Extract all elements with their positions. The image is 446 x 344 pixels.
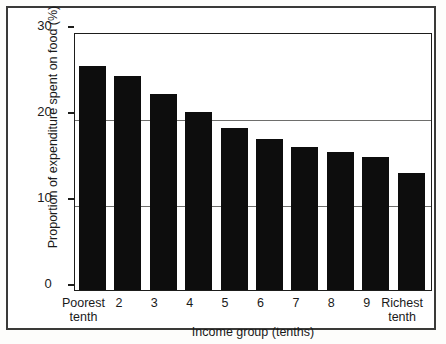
bar [114,76,141,290]
bar [221,128,248,290]
x-tick-label: Richesttenth [372,296,432,324]
y-tick-label-20: 20 [37,105,52,118]
bar-series [75,34,431,290]
figure-outer-frame: Proportion of expenditure spent on food … [6,6,436,330]
bar [291,147,318,290]
x-tick-label-line2: tenth [372,310,432,324]
x-tick-label-line1: Richest [372,296,432,310]
y-tick-mark-30 [68,26,74,28]
y-axis-title: Proportion of expenditure spent on food … [46,0,60,258]
bar [327,152,354,290]
bar [398,173,425,290]
y-tick-label-0: 0 [45,277,52,290]
bar [79,66,106,290]
plot-area [74,33,432,291]
bar [150,94,177,290]
y-tick-label-10: 10 [37,191,52,204]
x-axis-title: Income group (tenths) [74,325,432,339]
bar [185,112,212,290]
figure-container: Proportion of expenditure spent on food … [0,0,446,344]
y-tick-label-30: 30 [37,19,52,32]
x-tick-label-line2: tenth [54,310,114,324]
bar [362,157,389,290]
bar [256,139,283,290]
